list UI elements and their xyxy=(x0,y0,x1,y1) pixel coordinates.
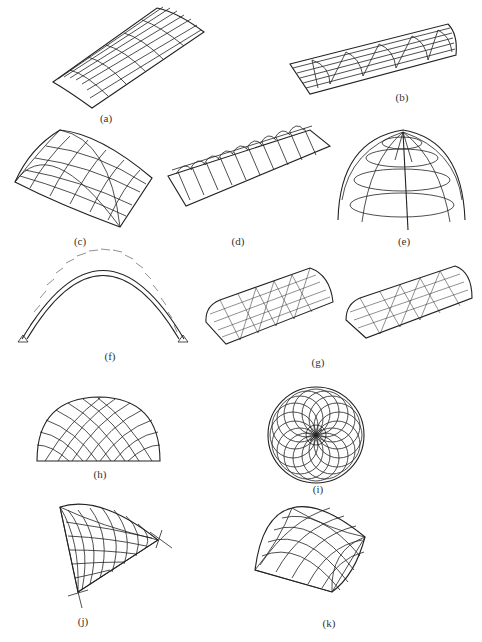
panel-k: (k) xyxy=(0,0,482,642)
panel-label-k: (k) xyxy=(323,617,336,629)
four-corner-grid-shell-drawing xyxy=(0,0,482,642)
